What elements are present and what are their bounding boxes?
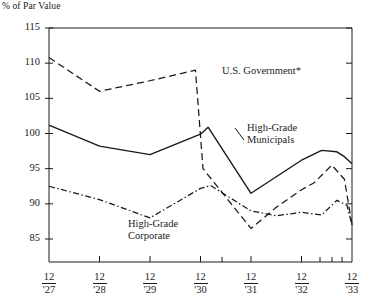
annotation-leader-lines — [235, 128, 244, 140]
y-tick-label: 95 — [10, 162, 40, 173]
y-tick-label: 110 — [10, 56, 40, 67]
series-annotation: Municipals — [247, 134, 294, 146]
series-annotation: U.S. Government* — [222, 65, 301, 77]
chart-container: % of Par Value 859095100105110115 12'271… — [0, 0, 372, 306]
x-tick-month: 12 — [93, 272, 107, 284]
x-tick-month: 12 — [194, 272, 208, 284]
y-tick-label: 100 — [10, 127, 40, 138]
x-tick-year: '30 — [181, 284, 221, 296]
y-tick-label: 105 — [10, 91, 40, 102]
x-tick-year: '27 — [29, 284, 69, 296]
x-tick-label: 12'32 — [282, 272, 322, 295]
x-tick-year: '33 — [332, 284, 372, 296]
x-tick-label: 12'33 — [332, 272, 372, 295]
y-tick-label: 90 — [10, 197, 40, 208]
series-line-high-grade-corporate — [49, 186, 352, 225]
x-tick-month: 12 — [42, 272, 56, 284]
series-annotation: High-Grade — [247, 122, 297, 134]
x-tick-year: '31 — [231, 284, 271, 296]
x-tick-month: 12 — [143, 272, 157, 284]
x-tick-year: '32 — [282, 284, 322, 296]
x-tick-label: 12'27 — [29, 272, 69, 295]
chart-series — [49, 58, 352, 229]
x-tick-label: 12'31 — [231, 272, 271, 295]
x-tick-year: '29 — [130, 284, 170, 296]
x-tick-label: 12'29 — [130, 272, 170, 295]
x-tick-month: 12 — [345, 272, 359, 284]
x-tick-month: 12 — [295, 272, 309, 284]
series-line-u-s-government — [49, 58, 352, 229]
series-annotation: Corporate — [128, 230, 170, 242]
chart-plot-area — [0, 0, 372, 306]
chart-axes — [45, 28, 352, 262]
x-tick-label: 12'28 — [80, 272, 120, 295]
x-tick-label: 12'30 — [181, 272, 221, 295]
x-tick-month: 12 — [244, 272, 258, 284]
series-annotation: High-Grade — [128, 218, 178, 230]
y-tick-label: 85 — [10, 232, 40, 243]
x-tick-year: '28 — [80, 284, 120, 296]
y-tick-label: 115 — [10, 21, 40, 32]
